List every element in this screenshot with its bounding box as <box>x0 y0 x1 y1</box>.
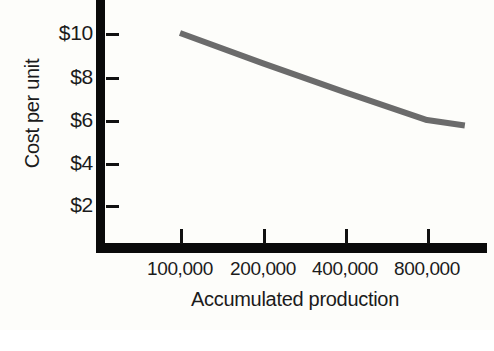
cost-curve-line <box>180 33 465 125</box>
y-tick-mark-8 <box>106 77 119 80</box>
x-tick-mark-400000 <box>345 229 348 244</box>
y-tick-mark-4 <box>106 163 119 166</box>
x-tick-label-800000: 800,000 <box>379 258 475 280</box>
page-margin <box>0 330 494 351</box>
y-tick-mark-2 <box>106 205 119 208</box>
x-tick-mark-100000 <box>180 229 183 244</box>
experience-curve-chart: $10 $8 $6 $4 $2 100,000 200,000 400,000 … <box>0 0 494 351</box>
y-tick-mark-10 <box>106 33 119 36</box>
y-axis-line <box>96 0 105 253</box>
x-tick-label-100000: 100,000 <box>132 258 228 280</box>
x-axis-line <box>96 243 487 253</box>
x-tick-mark-200000 <box>263 229 266 244</box>
y-axis-title: Cost per unit <box>21 39 44 189</box>
x-tick-mark-800000 <box>427 229 430 244</box>
y-tick-label-2: $2 <box>33 193 93 217</box>
y-tick-mark-6 <box>106 120 119 123</box>
x-axis-title: Accumulated production <box>120 288 470 311</box>
